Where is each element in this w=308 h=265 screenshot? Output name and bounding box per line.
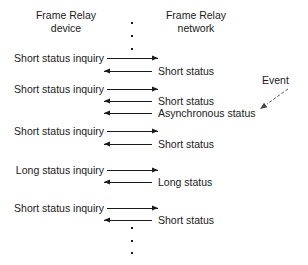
ellipsis-dot-bottom-3 (131, 252, 133, 254)
message-label-m7: Short status (158, 138, 214, 150)
message-label-m5: Asynchronous status (158, 107, 255, 119)
message-label-m8: Long status inquiry (14, 164, 104, 176)
arrow-m8 (107, 167, 158, 172)
arrow-m11 (104, 217, 152, 222)
message-label-m6: Short status inquiry (14, 125, 104, 137)
message-label-m11: Short status (158, 214, 214, 226)
arrow-m9 (104, 179, 152, 184)
header-device-line2: device (22, 22, 110, 35)
arrow-m2 (104, 68, 152, 73)
header-network-line1: Frame Relay (152, 9, 240, 22)
message-label-m9: Long status (158, 176, 212, 188)
arrow-m10 (107, 205, 158, 210)
frame-relay-sequence-diagram: Frame Relay device Frame Relay network S… (0, 0, 308, 265)
event-annotation-label: Event (262, 74, 289, 86)
message-label-m4: Short status (158, 95, 214, 107)
header-device-line1: Frame Relay (22, 9, 110, 22)
header-network-line2: network (152, 22, 240, 35)
ellipsis-dot-top-2 (131, 35, 133, 37)
arrow-m4 (104, 98, 152, 103)
event-pointer-arrow (260, 89, 288, 109)
arrow-m3 (107, 86, 158, 91)
message-label-m10: Short status inquiry (14, 202, 104, 214)
header-frame-relay-network: Frame Relay network (152, 9, 240, 35)
message-label-m2: Short status (158, 65, 214, 77)
message-label-m3: Short status inquiry (14, 83, 104, 95)
header-frame-relay-device: Frame Relay device (22, 9, 110, 35)
ellipsis-dot-top-3 (131, 48, 133, 50)
arrow-m1 (107, 55, 158, 60)
ellipsis-dot-bottom-2 (131, 240, 133, 242)
arrow-m6 (107, 128, 158, 133)
ellipsis-dot-top-1 (131, 22, 133, 24)
arrow-m5 (104, 110, 152, 115)
message-label-m1: Short status inquiry (14, 52, 104, 64)
ellipsis-dot-bottom-1 (131, 227, 133, 229)
arrow-m7 (104, 141, 152, 146)
